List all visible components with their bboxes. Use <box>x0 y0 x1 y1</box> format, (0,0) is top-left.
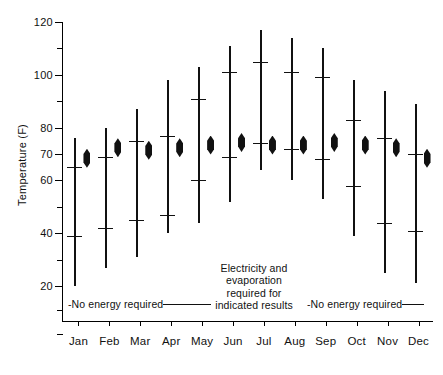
crossbar-marker <box>377 138 392 139</box>
range-line <box>322 48 324 198</box>
x-axis-tick-label: Apr <box>162 335 181 347</box>
y-axis-tick-minor <box>57 207 63 208</box>
crossbar-marker <box>377 223 392 224</box>
crossbar-marker <box>253 62 268 63</box>
y-axis-tick-label: 70 <box>40 148 53 160</box>
crossbar-marker <box>346 186 361 187</box>
x-axis-tick <box>78 321 79 326</box>
x-axis-tick-label: Mar <box>130 335 150 347</box>
x-axis-tick-label: Jun <box>223 335 242 347</box>
x-axis-tick-label: Feb <box>99 335 119 347</box>
annotation-text: -No energy required <box>68 298 163 310</box>
range-line <box>105 128 107 268</box>
x-axis-tick <box>233 321 234 326</box>
y-axis-tick <box>55 233 63 234</box>
crossbar-marker <box>315 77 330 78</box>
range-line <box>260 30 262 170</box>
crossbar-marker <box>160 215 175 216</box>
x-axis-tick-label: Sep <box>315 335 336 347</box>
range-line <box>229 46 231 202</box>
crossbar-marker <box>191 99 206 100</box>
annotation-rule <box>163 304 211 305</box>
range-line <box>353 80 355 236</box>
range-line <box>167 80 169 233</box>
y-axis-tick-minor <box>57 48 63 49</box>
x-axis-tick <box>264 321 265 326</box>
x-axis-tick-label: Oct <box>347 335 366 347</box>
y-axis-tick-label: 40 <box>40 227 53 239</box>
x-axis-tick <box>419 321 420 326</box>
crossbar-marker <box>129 141 144 142</box>
y-axis-title: Temperature (F) <box>2 0 14 110</box>
x-axis-tick-label: Nov <box>377 335 398 347</box>
y-axis-tick-minor <box>57 310 63 311</box>
x-axis-tick <box>202 321 203 326</box>
y-axis-tick-label: 60 <box>40 174 53 186</box>
x-axis-tick-label: Dec <box>408 335 429 347</box>
crossbar-marker <box>253 143 268 144</box>
crossbar-marker <box>284 72 299 73</box>
x-axis-tick-label: May <box>191 335 213 347</box>
y-axis-tick-minor <box>57 101 63 102</box>
crossbar-marker <box>67 236 82 237</box>
crossbar-marker <box>315 159 330 160</box>
x-axis-tick <box>357 321 358 326</box>
annotation-line: evaporation <box>206 274 302 286</box>
annotation-text: -No energy required <box>307 298 402 310</box>
y-axis-tick-minor <box>57 260 63 261</box>
x-axis-tick <box>295 321 296 326</box>
crossbar-marker <box>98 157 113 158</box>
range-line <box>415 104 417 284</box>
x-axis-tick-label: Aug <box>284 335 305 347</box>
x-axis-tick-label: Jan <box>69 335 88 347</box>
y-axis-tick <box>55 22 63 23</box>
y-axis-tick-minor <box>57 334 63 335</box>
x-axis-tick <box>140 321 141 326</box>
crossbar-marker <box>160 136 175 137</box>
crossbar-marker <box>408 231 423 232</box>
crossbar-marker <box>222 72 237 73</box>
y-axis-tick <box>55 180 63 181</box>
range-line <box>198 67 200 223</box>
x-axis-tick-label: Jul <box>256 335 271 347</box>
annotation-line: Electricity and <box>206 262 302 274</box>
annotation-right-no-energy: -No energy required <box>307 298 424 310</box>
temperature-range-chart: Temperature (F) 1201008070604020JanFebMa… <box>0 0 443 375</box>
y-axis-tick-label: 100 <box>34 69 53 81</box>
x-axis-tick <box>326 321 327 326</box>
range-line <box>136 109 138 257</box>
annotation-center-electricity: Electricity andevaporationrequired forin… <box>206 262 302 312</box>
y-axis-tick <box>55 75 63 76</box>
annotation-left-no-energy: -No energy required <box>68 298 211 310</box>
range-line <box>291 38 293 181</box>
x-axis-tick <box>388 321 389 326</box>
crossbar-marker <box>346 120 361 121</box>
y-axis-tick <box>55 286 63 287</box>
crossbar-marker <box>129 220 144 221</box>
x-axis-tick <box>171 321 172 326</box>
y-axis-tick-label: 120 <box>34 16 53 28</box>
range-line <box>74 138 76 286</box>
crossbar-marker <box>284 149 299 150</box>
y-axis-tick-label: 20 <box>40 280 53 292</box>
y-axis-tick <box>55 128 63 129</box>
crossbar-marker <box>67 167 82 168</box>
y-axis-tick <box>55 154 63 155</box>
annotation-line: indicated results <box>206 299 302 311</box>
crossbar-marker <box>222 157 237 158</box>
y-axis-tick-label: 80 <box>40 122 53 134</box>
annotation-rule <box>402 304 424 305</box>
crossbar-marker <box>191 180 206 181</box>
crossbar-marker <box>408 154 423 155</box>
x-axis-tick <box>109 321 110 326</box>
annotation-line: required for <box>206 287 302 299</box>
range-line <box>384 91 386 273</box>
crossbar-marker <box>98 228 113 229</box>
